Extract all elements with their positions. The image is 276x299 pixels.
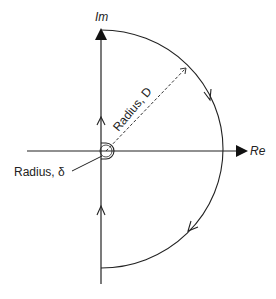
real-axis-label: Re [250,144,265,158]
radius-D-line [106,68,186,151]
large-semicircle-contour [101,30,223,268]
nyquist-contour-diagram [0,0,276,299]
small-radius-label: Radius, δ [14,165,65,179]
imaginary-axis-label: Im [95,10,108,24]
radius-delta-leader [72,156,102,171]
real-axis-arrowhead-icon [236,145,248,157]
